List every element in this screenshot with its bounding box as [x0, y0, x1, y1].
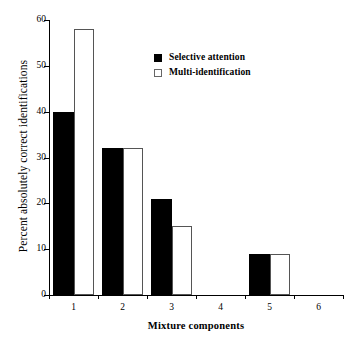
y-tick-label: 50	[37, 59, 47, 72]
y-axis-line	[49, 20, 50, 295]
bar	[151, 199, 172, 295]
bar	[270, 254, 291, 295]
legend-label: Selective attention	[169, 50, 245, 65]
y-tick-label: 10	[37, 242, 47, 255]
open-square-icon	[154, 69, 162, 77]
x-tick-mark	[49, 295, 50, 299]
legend-item: Selective attention	[154, 50, 251, 65]
x-tick-mark	[294, 295, 295, 299]
bar	[74, 29, 95, 295]
x-tick-mark	[98, 295, 99, 299]
x-tick-label: 1	[64, 301, 84, 314]
x-tick-label: 3	[162, 301, 182, 314]
y-axis-title: Percent absolutely correct identificatio…	[17, 16, 29, 296]
y-tick-label: 0	[41, 288, 46, 301]
x-tick-mark	[343, 295, 344, 299]
legend-item: Multi-identification	[154, 65, 251, 80]
x-tick-label: 2	[113, 301, 133, 314]
x-tick-label: 5	[260, 301, 280, 314]
x-axis-title: Mixture components	[49, 320, 343, 331]
bar	[249, 254, 270, 295]
x-tick-mark	[245, 295, 246, 299]
y-tick-label: 60	[37, 13, 47, 26]
chart-legend: Selective attentionMulti-identification	[154, 50, 251, 80]
x-tick-mark	[147, 295, 148, 299]
filled-square-icon	[154, 54, 162, 62]
y-tick-label: 30	[37, 151, 47, 164]
bar	[53, 112, 74, 295]
x-tick-label: 6	[309, 301, 329, 314]
bar	[172, 226, 193, 295]
bar	[102, 148, 123, 295]
bar	[123, 148, 144, 295]
y-tick-label: 20	[37, 196, 47, 209]
x-tick-label: 4	[211, 301, 231, 314]
legend-label: Multi-identification	[169, 65, 251, 80]
x-tick-mark	[196, 295, 197, 299]
y-tick-label: 40	[37, 105, 47, 118]
bar-chart-figure: Percent absolutely correct identificatio…	[0, 0, 353, 347]
